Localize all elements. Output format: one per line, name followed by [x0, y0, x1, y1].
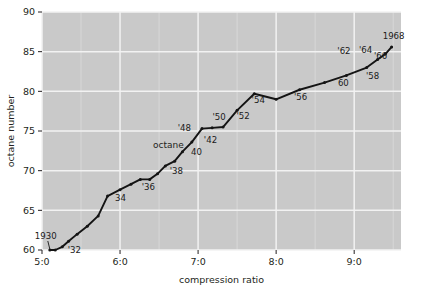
x-axis-title: compression ratio: [179, 274, 264, 285]
x-axis-tick-label: 5:0: [34, 256, 49, 267]
data-point-marker: [365, 66, 368, 69]
y-axis-tick-label: 60: [23, 244, 35, 255]
data-point-label: '62: [337, 46, 350, 56]
chart-figure: 606570758085905:06:07:08:09:0compression…: [0, 0, 422, 294]
data-point-label: '66: [374, 51, 387, 61]
data-point-marker: [156, 172, 159, 175]
data-point-label: '56: [294, 92, 307, 102]
x-axis-tick-label: 9:0: [347, 256, 362, 267]
data-point-marker: [222, 126, 225, 129]
data-point-label: '42: [204, 135, 217, 145]
data-point-label: '58: [366, 71, 379, 81]
data-point-marker: [119, 188, 122, 191]
data-point-marker: [76, 233, 79, 236]
data-point-label: 1930: [35, 231, 57, 241]
data-point-label: '54: [252, 95, 265, 105]
data-point-marker: [164, 164, 167, 167]
y-axis-title: octane number: [5, 95, 16, 168]
data-point-marker: [390, 45, 393, 48]
data-point-marker: [148, 178, 151, 181]
data-point-marker: [275, 98, 278, 101]
x-axis-tick-label: 7:0: [190, 256, 205, 267]
data-point-label: '52: [236, 111, 249, 121]
data-point-marker: [323, 81, 326, 84]
data-point-marker: [106, 195, 109, 198]
octane-compression-line-chart: 606570758085905:06:07:08:09:0compression…: [0, 0, 422, 294]
data-point-marker: [200, 127, 203, 130]
y-axis-tick-label: 80: [23, 86, 35, 97]
data-point-label: '36: [142, 182, 155, 192]
data-point-label: 60: [338, 78, 349, 88]
data-point-marker: [173, 160, 176, 163]
data-point-label: '32: [68, 245, 81, 255]
data-point-marker: [129, 183, 132, 186]
x-axis-tick-label: 6:0: [112, 256, 127, 267]
y-axis-tick-label: 70: [23, 165, 35, 176]
data-point-marker: [97, 214, 100, 217]
data-point-marker: [54, 249, 57, 252]
data-point-label: '64: [359, 45, 372, 55]
data-point-label: 1968: [383, 31, 405, 41]
data-point-label: 40: [191, 147, 202, 157]
data-point-marker: [211, 126, 214, 129]
y-axis-tick-label: 90: [23, 6, 35, 17]
data-point-marker: [61, 245, 64, 248]
data-point-marker: [86, 225, 89, 228]
data-point-marker: [345, 74, 348, 77]
data-point-marker: [190, 141, 193, 144]
data-point-label: '48: [178, 123, 191, 133]
data-point-marker: [181, 150, 184, 153]
y-axis-tick-label: 75: [23, 125, 35, 136]
x-axis-tick-label: 8:0: [268, 256, 283, 267]
data-point-marker: [139, 178, 142, 181]
data-point-marker: [67, 240, 70, 243]
data-point-label: 34: [115, 193, 126, 203]
y-axis-tick-label: 85: [23, 46, 35, 57]
y-axis-tick-label: 65: [23, 205, 35, 216]
data-point-label: '38: [170, 166, 183, 176]
annotation-octane: octane: [153, 140, 184, 150]
data-point-label: '50: [212, 112, 225, 122]
